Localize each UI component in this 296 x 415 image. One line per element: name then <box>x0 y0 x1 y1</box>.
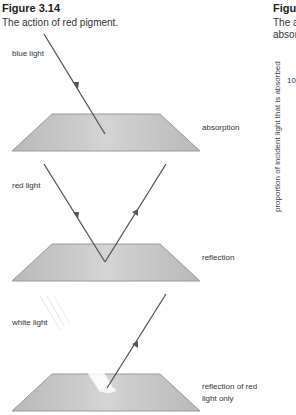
pigment-surface <box>12 244 200 281</box>
right-figure-number: Figur <box>273 2 296 14</box>
label-reflection-red-line1: reflection of red <box>202 382 257 391</box>
panel-white-light <box>12 294 200 411</box>
label-blue-light: blue light <box>12 49 44 58</box>
label-reflection: reflection <box>202 253 234 262</box>
arrowhead-icon <box>73 82 79 89</box>
pigment-diagram <box>0 0 296 415</box>
right-figure-caption-line1: The a <box>273 17 296 28</box>
label-white-light: white light <box>12 318 48 327</box>
label-red-light: red light <box>12 181 40 190</box>
label-absorption: absorption <box>202 123 239 132</box>
arrowhead-icon <box>73 212 79 219</box>
right-figure-caption-line2: absor <box>273 29 296 40</box>
y-axis-label: proportion of incident light that is abs… <box>273 61 282 212</box>
label-reflection-red-line2: light only <box>202 394 234 403</box>
y-tick-label: 10 <box>287 76 296 85</box>
pigment-surface <box>12 114 200 151</box>
